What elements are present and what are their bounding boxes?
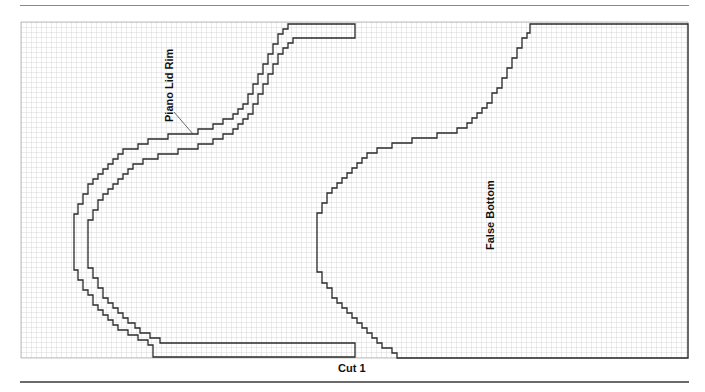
bottom-rule [20,381,689,383]
cut-caption: Cut 1 [338,362,366,374]
grid-area [21,22,688,358]
piano-lid-rim-label: Piano Lid Rim [163,49,175,122]
cutting-grid-diagram [0,0,705,392]
false-bottom-label: False Bottom [484,180,496,250]
